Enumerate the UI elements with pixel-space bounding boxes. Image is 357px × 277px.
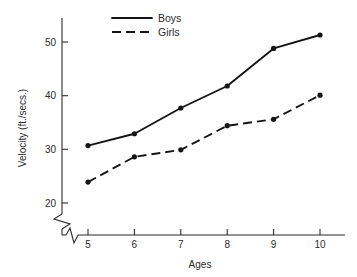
legend-label-boys: Boys	[158, 12, 181, 24]
y-axis-break-icon	[54, 214, 70, 229]
data-point-boys-age-5	[85, 143, 90, 148]
data-point-girls-age-8	[225, 123, 230, 128]
series-line-girls	[88, 95, 320, 182]
x-tick-label-9: 9	[271, 239, 277, 250]
data-point-girls-age-6	[132, 154, 137, 159]
y-tick-label-30: 30	[45, 144, 57, 155]
x-axis-break-icon	[66, 228, 78, 243]
y-tick-label-50: 50	[45, 37, 57, 48]
x-tick-label-5: 5	[85, 239, 91, 250]
y-tick-label-40: 40	[45, 90, 57, 101]
data-point-girls-age-9	[271, 117, 276, 122]
data-point-boys-age-7	[178, 105, 183, 110]
data-point-girls-age-10	[317, 93, 322, 98]
data-point-boys-age-10	[317, 32, 322, 37]
y-tick-label-20: 20	[45, 198, 57, 209]
legend-label-girls: Girls	[158, 26, 180, 38]
x-tick-label-6: 6	[132, 239, 138, 250]
data-point-boys-age-9	[271, 46, 276, 51]
chart-page: 50 40 30 20 5 6 7 8 9 10 Ages Velocity (	[0, 0, 357, 277]
series-layer	[85, 32, 322, 184]
y-axis-title: Velocity (ft./secs.)	[17, 89, 28, 167]
data-point-boys-age-8	[225, 83, 230, 88]
x-axis-ticks: 5 6 7 8 9 10	[85, 229, 326, 250]
data-point-girls-age-5	[85, 179, 90, 184]
x-tick-label-7: 7	[178, 239, 184, 250]
series-line-boys	[88, 35, 320, 146]
x-tick-label-10: 10	[314, 239, 326, 250]
data-point-girls-age-7	[178, 147, 183, 152]
x-axis-title: Ages	[189, 259, 212, 270]
velocity-by-age-line-chart: 50 40 30 20 5 6 7 8 9 10 Ages Velocity (	[0, 0, 357, 277]
x-tick-label-8: 8	[224, 239, 230, 250]
y-axis-ticks: 50 40 30 20	[45, 37, 68, 209]
legend: Boys Girls	[112, 12, 181, 38]
data-point-boys-age-6	[132, 131, 137, 136]
